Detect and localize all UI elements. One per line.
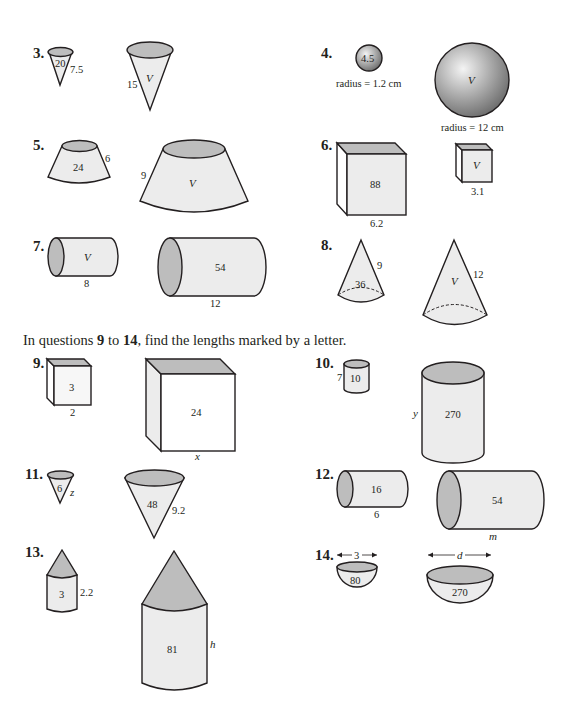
svg-text:y: y — [412, 407, 418, 419]
question-number: 7. — [33, 238, 45, 254]
small-cylinder: V 8 — [48, 238, 118, 289]
svg-text:270: 270 — [445, 409, 461, 420]
svg-text:z: z — [69, 486, 75, 498]
svg-text:16: 16 — [371, 484, 382, 495]
svg-text:88: 88 — [370, 179, 381, 190]
small-cone: 6 z — [48, 471, 76, 503]
instruction-text: In questions 9 to 14, find the lengths m… — [23, 332, 346, 349]
svg-text:12: 12 — [473, 269, 484, 280]
large-cone-upright: V 12 — [423, 240, 487, 325]
question-5: 5. 24 6 V 9 — [33, 137, 248, 212]
small-cone-upright: 36 9 — [338, 240, 384, 302]
question-number: 3. — [33, 45, 45, 61]
svg-text:9.2: 9.2 — [172, 505, 185, 516]
svg-text:radius = 1.2 cm: radius = 1.2 cm — [336, 78, 401, 89]
svg-text:m: m — [489, 530, 497, 542]
svg-text:9: 9 — [377, 260, 382, 271]
question-7: 7. V 8 54 12 — [33, 238, 266, 309]
question-13: 13. 3 2.2 81 h — [25, 544, 216, 690]
svg-text:15: 15 — [127, 79, 138, 90]
large-cone-cylinder: 81 h — [142, 551, 216, 690]
question-number: 12. — [315, 466, 334, 482]
question-11: 11. 6 z 48 9.2 — [25, 466, 185, 538]
question-4: 4. 4.5 radius = 1.2 cm V radius = 12 cm — [321, 43, 509, 133]
svg-text:20: 20 — [55, 58, 66, 69]
question-8: 8. 36 9 V 12 — [321, 237, 487, 325]
small-sphere: 4.5 radius = 1.2 cm — [336, 45, 401, 89]
svg-text:9: 9 — [141, 170, 146, 181]
svg-text:x: x — [194, 450, 200, 462]
svg-text:6: 6 — [105, 153, 110, 164]
svg-text:24: 24 — [73, 162, 84, 173]
large-hemisphere: d 270 — [427, 549, 493, 603]
small-hemisphere: 3 80 — [337, 549, 377, 587]
question-number: 6. — [321, 137, 333, 153]
question-12: 12. 16 6 54 m — [315, 466, 544, 542]
question-3: 3. 20 7.5 V 15 — [33, 42, 173, 110]
svg-text:2.2: 2.2 — [80, 587, 93, 598]
large-frustum: V 9 — [140, 140, 248, 212]
svg-text:81: 81 — [167, 644, 178, 655]
svg-text:6.2: 6.2 — [370, 218, 383, 229]
svg-text:2: 2 — [70, 407, 75, 418]
svg-text:6: 6 — [374, 509, 379, 520]
svg-text:6: 6 — [57, 483, 62, 494]
question-number: 5. — [33, 137, 45, 153]
svg-text:80: 80 — [350, 575, 361, 586]
question-number: 8. — [321, 237, 333, 253]
small-cylinder-upright: 10 7 — [337, 360, 369, 393]
small-cone: 20 7.5 — [48, 48, 83, 86]
svg-text:3: 3 — [59, 589, 64, 600]
question-number: 13. — [25, 544, 44, 560]
svg-text:12: 12 — [210, 298, 221, 309]
svg-text:h: h — [210, 638, 216, 650]
large-cube: 24 x — [146, 359, 235, 462]
question-number: 11. — [25, 466, 43, 482]
svg-text:48: 48 — [147, 499, 158, 510]
svg-text:54: 54 — [492, 495, 503, 506]
svg-text:radius = 12 cm: radius = 12 cm — [441, 122, 504, 133]
question-14: 14. 3 80 d 270 — [315, 547, 493, 603]
large-cylinder-upright: 270 y — [412, 362, 484, 463]
question-number: 9. — [33, 355, 45, 371]
svg-text:36: 36 — [355, 279, 366, 290]
svg-text:8: 8 — [84, 278, 89, 289]
large-sphere: V radius = 12 cm — [435, 43, 509, 133]
small-cube: V 3.1 — [456, 144, 492, 197]
small-cone-cylinder: 3 2.2 — [47, 550, 93, 612]
question-6: 6. 88 6.2 V 3.1 — [321, 137, 492, 229]
large-cone: V 15 — [127, 42, 173, 110]
question-number: 10. — [315, 355, 334, 371]
question-9: 9. 3 2 24 x — [33, 355, 235, 462]
svg-text:270: 270 — [452, 587, 468, 598]
large-cone: 48 9.2 — [125, 470, 185, 538]
svg-text:3.1: 3.1 — [471, 186, 484, 197]
large-cylinder: 54 12 — [158, 238, 266, 309]
large-cube: 88 6.2 — [337, 143, 406, 229]
svg-text:3: 3 — [354, 550, 359, 561]
question-number: 4. — [321, 45, 333, 61]
large-cylinder: 54 m — [437, 471, 544, 542]
svg-text:4.5: 4.5 — [361, 53, 374, 64]
small-cube: 3 2 — [47, 359, 91, 418]
svg-text:10: 10 — [350, 373, 361, 384]
small-frustum: 24 6 — [48, 141, 110, 184]
svg-text:7.5: 7.5 — [70, 64, 83, 75]
question-number: 14. — [315, 547, 334, 563]
svg-text:d: d — [457, 549, 463, 561]
question-10: 10. 10 7 270 y — [315, 355, 484, 463]
svg-text:3: 3 — [69, 382, 74, 393]
svg-text:54: 54 — [215, 262, 226, 273]
small-cylinder: 16 6 — [337, 471, 408, 520]
exercise-page: 3. 20 7.5 V 15 4. 4.5 radius = 1.2 cm V … — [0, 0, 574, 710]
svg-text:24: 24 — [191, 407, 202, 418]
svg-text:7: 7 — [337, 372, 342, 383]
